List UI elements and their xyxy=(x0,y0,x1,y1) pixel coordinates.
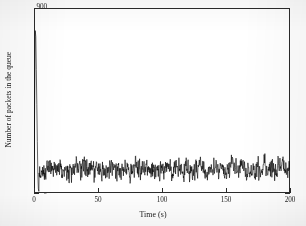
y-axis-title-container: Number of packets in the queue xyxy=(2,0,16,200)
x-tick-mark xyxy=(34,188,35,193)
x-tick-label: 50 xyxy=(84,197,112,204)
x-tick-label: 0 xyxy=(20,197,48,204)
y-axis-title: Number of packets in the queue xyxy=(5,52,12,148)
x-tick-mark xyxy=(98,188,99,193)
x-tick-mark xyxy=(162,188,163,193)
x-tick-label: 100 xyxy=(148,197,176,204)
x-tick-mark xyxy=(226,188,227,193)
queue-length-figure: Number of packets in the queue 010020030… xyxy=(0,0,306,226)
x-tick-mark xyxy=(290,188,291,193)
x-axis-title: Time (s) xyxy=(0,211,306,219)
queue-length-series xyxy=(34,8,290,193)
x-tick-label: 150 xyxy=(212,197,240,204)
x-tick-label: 200 xyxy=(276,197,304,204)
